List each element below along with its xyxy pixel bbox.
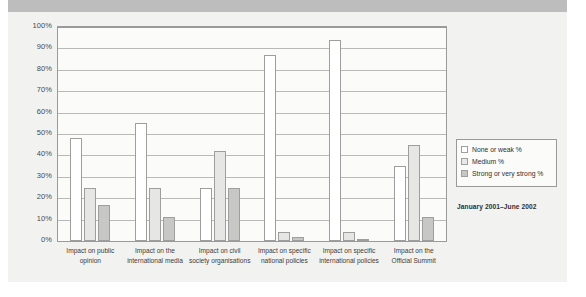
legend-swatch-icon (461, 146, 468, 153)
bar[interactable] (278, 232, 290, 241)
bar-group (58, 27, 123, 241)
y-axis-tick-label: 30% (8, 172, 52, 180)
y-axis-tick-label: 100% (8, 22, 52, 30)
bar[interactable] (200, 188, 212, 242)
bar[interactable] (264, 55, 276, 241)
bar[interactable] (292, 237, 304, 241)
legend-swatch-icon (461, 170, 468, 177)
bar[interactable] (422, 217, 434, 241)
x-axis-label-line: Impact on specific (323, 247, 376, 254)
bar[interactable] (84, 188, 96, 242)
bar-group (317, 27, 382, 241)
x-axis-label: Impact on civilsociety organisations (187, 246, 252, 265)
legend-label: None or weak % (472, 145, 522, 155)
bar[interactable] (343, 232, 355, 241)
legend-label: Strong or very strong % (472, 169, 543, 179)
x-axis-label-line: Impact on specific (258, 247, 311, 254)
legend-swatch-icon (461, 158, 468, 165)
bar[interactable] (357, 239, 369, 241)
bar[interactable] (70, 138, 82, 241)
x-axis-labels: Impact on publicopinionImpact on theinte… (58, 246, 446, 265)
bar-group (123, 27, 188, 241)
page-top-band (8, 0, 567, 12)
y-axis: 0%10%20%30%40%50%60%70%80%90%100% (0, 26, 52, 242)
bar-group (381, 27, 446, 241)
x-axis-label: Impact on publicopinion (58, 246, 123, 265)
bar[interactable] (408, 145, 420, 241)
y-axis-tick-label: 10% (8, 215, 52, 223)
chart-legend: None or weak %Medium %Strong or very str… (456, 139, 557, 187)
bar[interactable] (214, 151, 226, 241)
y-axis-tick-label: 0% (8, 236, 52, 244)
bar[interactable] (394, 166, 406, 241)
y-axis-tick-label: 40% (8, 151, 52, 159)
date-range-annotation: January 2001–June 2002 (457, 203, 567, 210)
bar[interactable] (329, 40, 341, 241)
x-axis-label: Impact on specificinternational policies (317, 246, 382, 265)
bar[interactable] (135, 123, 147, 241)
x-axis-label-line: Official Summit (392, 257, 436, 264)
bar-groups (58, 27, 446, 241)
x-axis-label-line: national policies (261, 257, 308, 264)
bar[interactable] (228, 188, 240, 242)
y-axis-tick-label: 90% (8, 44, 52, 52)
x-axis-label-line: international media (127, 257, 183, 264)
y-axis-tick-label: 20% (8, 193, 52, 201)
y-axis-tick-label: 60% (8, 108, 52, 116)
bar[interactable] (163, 217, 175, 241)
x-axis-label-line: international policies (319, 257, 379, 264)
x-axis-label-line: Impact on the (135, 247, 175, 254)
x-axis-label-line: Impact on public (66, 247, 114, 254)
y-axis-tick-label: 50% (8, 129, 52, 137)
legend-item[interactable]: Strong or very strong % (461, 169, 552, 179)
gridline (58, 241, 446, 242)
x-axis-label: Impact on theOfficial Summit (381, 246, 446, 265)
y-axis-tick-label: 80% (8, 65, 52, 73)
x-axis-label-line: society organisations (189, 257, 251, 264)
legend-item[interactable]: Medium % (461, 157, 552, 167)
bar[interactable] (149, 188, 161, 242)
legend-label: Medium % (472, 157, 504, 167)
chart-page: 0%10%20%30%40%50%60%70%80%90%100% Impact… (0, 0, 586, 297)
x-axis-label-line: Impact on the (394, 247, 434, 254)
bar-group (187, 27, 252, 241)
x-axis-label-line: opinion (80, 257, 101, 264)
x-axis-label-line: Impact on civil (199, 247, 241, 254)
legend-item[interactable]: None or weak % (461, 145, 552, 155)
y-axis-tick-label: 70% (8, 86, 52, 94)
x-axis-label: Impact on specificnational policies (252, 246, 317, 265)
x-axis-label: Impact on theinternational media (123, 246, 188, 265)
bar-group (252, 27, 317, 241)
bar[interactable] (98, 205, 110, 241)
